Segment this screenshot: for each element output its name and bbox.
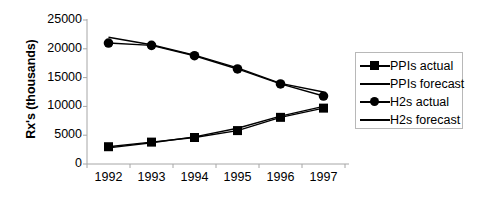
y-axis-tick-label: 25000 <box>26 12 82 26</box>
y-axis-tick-label: 10000 <box>26 98 82 112</box>
data-point-marker-circle <box>233 64 243 74</box>
legend-item-3[interactable]: H2s forecast <box>356 111 462 129</box>
data-point-marker-square <box>147 138 156 147</box>
legend-item-0[interactable]: PPIs actual <box>356 57 462 75</box>
legend-item-2[interactable]: H2s actual <box>356 93 462 111</box>
chart-legend: PPIs actualPPIs forecastH2s actualH2s fo… <box>355 52 463 129</box>
y-axis-tick-labels: 2500020000150001000050000 <box>22 0 82 202</box>
data-point-marker-circle <box>190 51 200 61</box>
legend-item-1[interactable]: PPIs forecast <box>356 75 462 93</box>
legend-key-icon <box>360 77 390 91</box>
legend-item-label: PPIs actual <box>390 59 453 73</box>
data-point-marker-circle <box>104 38 114 48</box>
legend-square-marker-icon <box>370 61 379 70</box>
y-axis-tick-label: 15000 <box>26 70 82 84</box>
data-point-marker-square <box>276 113 285 122</box>
y-axis-tick-label: 0 <box>26 156 82 170</box>
series-line-2 <box>109 43 324 96</box>
data-point-marker-circle <box>319 91 329 101</box>
legend-item-label: H2s forecast <box>390 113 460 127</box>
data-point-marker-circle <box>147 41 157 51</box>
y-axis-tick-label: 20000 <box>26 41 82 55</box>
data-point-marker-square <box>233 126 242 135</box>
legend-line-icon <box>360 119 390 121</box>
legend-key-icon <box>360 59 390 73</box>
x-axis-tick-label: 1997 <box>296 170 352 184</box>
series-line-3 <box>109 37 324 92</box>
chart-figure: Rx's (thousands) 25000200001500010000500… <box>0 0 489 202</box>
legend-item-label: PPIs forecast <box>390 77 464 91</box>
data-point-marker-square <box>319 104 328 113</box>
legend-item-label: H2s actual <box>390 95 449 109</box>
legend-line-icon <box>360 83 390 85</box>
legend-circle-marker-icon <box>370 97 379 106</box>
data-point-marker-square <box>104 142 113 151</box>
y-axis-tick-label: 5000 <box>26 127 82 141</box>
series-line-1 <box>109 106 324 147</box>
data-point-marker-square <box>190 133 199 142</box>
data-point-marker-circle <box>276 79 286 89</box>
legend-key-icon <box>360 113 390 127</box>
legend-key-icon <box>360 95 390 109</box>
